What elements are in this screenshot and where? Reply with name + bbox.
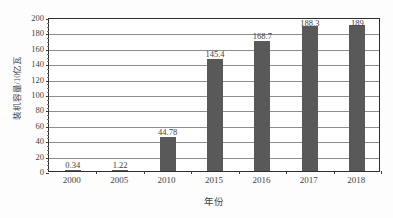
- y-tick-label: 20: [18, 152, 44, 161]
- y-tickmark-minor: [47, 104, 49, 105]
- y-tick-label: 40: [18, 137, 44, 146]
- bar-chart: 装机容量/10亿瓦 020406080100120140160180200 0.…: [0, 0, 393, 218]
- y-tickmark-minor: [47, 27, 49, 28]
- y-tickmark-minor: [47, 77, 49, 78]
- y-tickmark: [46, 158, 49, 159]
- bar: [160, 137, 176, 171]
- y-tickmark: [46, 65, 49, 66]
- y-tickmark-minor: [47, 88, 49, 89]
- y-tickmark: [46, 34, 49, 35]
- y-tick-label: 140: [18, 60, 44, 69]
- x-tickmark: [239, 171, 240, 174]
- y-tickmark: [46, 81, 49, 82]
- y-tick-label: 160: [18, 45, 44, 54]
- y-tickmark-minor: [47, 165, 49, 166]
- x-tickmark: [381, 171, 382, 174]
- y-tick-label: 60: [18, 122, 44, 131]
- y-tickmark-minor: [47, 42, 49, 43]
- x-tickmark: [96, 171, 97, 174]
- y-tickmark-minor: [47, 23, 49, 24]
- y-tickmark-minor: [47, 123, 49, 124]
- bar: [349, 25, 365, 171]
- bar-value-label: 0.34: [65, 161, 80, 170]
- y-tickmark-minor: [47, 69, 49, 70]
- y-tick-label: 120: [18, 75, 44, 84]
- x-tickmark: [144, 171, 145, 174]
- bar-value-label: 189: [351, 19, 364, 28]
- y-tickmark-minor: [47, 38, 49, 39]
- y-tickmark-minor: [47, 54, 49, 55]
- y-tickmark: [46, 50, 49, 51]
- y-tickmark-minor: [47, 146, 49, 147]
- bar-value-label: 145.4: [205, 50, 224, 59]
- x-tick-label: 2018: [347, 175, 365, 185]
- y-tickmark-minor: [47, 154, 49, 155]
- bar-value-label: 44.78: [158, 128, 177, 137]
- bar: [207, 59, 223, 171]
- bar: [112, 170, 128, 171]
- y-tickmark: [46, 173, 49, 174]
- y-tickmark-minor: [47, 115, 49, 116]
- bar-value-label: 188.3: [300, 19, 319, 28]
- plot-area: 0.341.2244.78145.4168.7188.3189: [48, 18, 380, 172]
- y-tick-label: 100: [18, 91, 44, 100]
- y-tickmark: [46, 19, 49, 20]
- y-tick-label: 0: [18, 168, 44, 177]
- bar: [302, 26, 318, 171]
- y-tick-label: 200: [18, 14, 44, 23]
- x-tickmark: [191, 171, 192, 174]
- x-tick-label: 2000: [63, 175, 81, 185]
- y-tick-label: 180: [18, 29, 44, 38]
- y-tickmark-minor: [47, 73, 49, 74]
- x-tick-label: 2016: [252, 175, 270, 185]
- x-tickmark: [286, 171, 287, 174]
- x-axis-title: 年份: [48, 194, 380, 208]
- y-tickmark-minor: [47, 150, 49, 151]
- y-tickmark-minor: [47, 135, 49, 136]
- x-tick-label: 2010: [158, 175, 176, 185]
- x-tick-label: 2005: [110, 175, 128, 185]
- y-tickmark-minor: [47, 119, 49, 120]
- y-tickmark-minor: [47, 108, 49, 109]
- y-tickmark-minor: [47, 131, 49, 132]
- y-tickmark-minor: [47, 161, 49, 162]
- y-tickmark-minor: [47, 46, 49, 47]
- y-tickmark-minor: [47, 138, 49, 139]
- bar-value-label: 1.22: [113, 161, 128, 170]
- y-tickmark: [46, 96, 49, 97]
- y-axis-tick-labels: 020406080100120140160180200: [18, 18, 44, 172]
- y-tickmark-minor: [47, 92, 49, 93]
- y-tickmark: [46, 142, 49, 143]
- y-tickmark-minor: [47, 61, 49, 62]
- x-tick-label: 2017: [300, 175, 318, 185]
- bar-value-label: 168.7: [253, 32, 272, 41]
- y-tickmark-minor: [47, 100, 49, 101]
- x-tick-label: 2015: [205, 175, 223, 185]
- y-tickmark: [46, 111, 49, 112]
- x-axis-tick-labels: 2000200520102015201620172018: [48, 175, 380, 189]
- bar: [254, 41, 270, 171]
- y-tickmark: [46, 127, 49, 128]
- y-tickmark-minor: [47, 84, 49, 85]
- y-tickmark-minor: [47, 31, 49, 32]
- y-tickmark-minor: [47, 58, 49, 59]
- y-tick-label: 80: [18, 106, 44, 115]
- y-tickmark-minor: [47, 169, 49, 170]
- gridline: [49, 34, 379, 35]
- bar: [65, 170, 81, 171]
- x-tickmark: [334, 171, 335, 174]
